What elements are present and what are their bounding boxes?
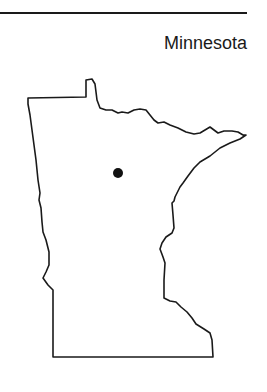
state-map: [0, 0, 267, 392]
location-marker-dot: [113, 168, 123, 178]
state-outline: [28, 79, 246, 357]
